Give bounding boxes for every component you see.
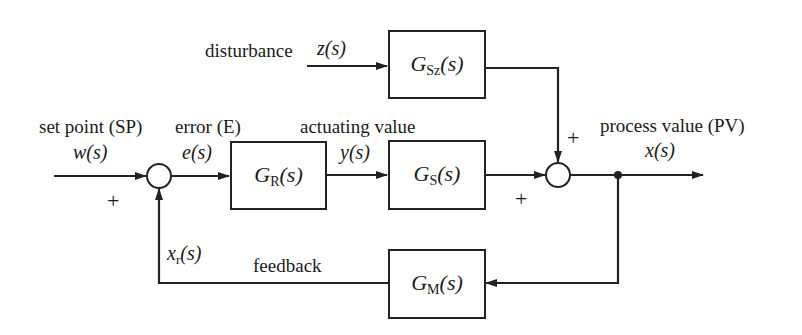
feedback-var: xr(s) xyxy=(167,243,201,266)
summing-junction-1 xyxy=(147,164,171,188)
error-label: error (E) xyxy=(175,117,241,136)
error-var: e(s) xyxy=(182,142,212,162)
block-measurement: GM(s) xyxy=(388,249,486,319)
disturbance-output-line xyxy=(485,68,558,162)
sum2-disturbance-plus-sign: + xyxy=(567,127,579,149)
block-plant: GS(s) xyxy=(388,140,486,210)
disturbance-var: z(s) xyxy=(317,38,346,58)
sum2-plant-plus-sign: + xyxy=(515,188,527,210)
actuating-var: y(s) xyxy=(340,142,370,162)
summing-junction-2 xyxy=(546,163,570,187)
actuating-label: actuating value xyxy=(300,117,416,136)
process-label: process value (PV) xyxy=(600,116,745,135)
setpoint-label: set point (SP) xyxy=(39,117,142,136)
setpoint-var: w(s) xyxy=(73,142,107,162)
disturbance-transfer-function: GSz(s) xyxy=(410,51,463,79)
measurement-transfer-function: GM(s) xyxy=(411,270,463,298)
sum1-plus-sign: + xyxy=(107,190,119,212)
process-var: x(s) xyxy=(645,140,675,160)
block-disturbance: GSz(s) xyxy=(388,30,486,99)
measurement-input-line xyxy=(486,175,618,283)
plant-transfer-function: GS(s) xyxy=(414,161,461,189)
controller-transfer-function: GR(s) xyxy=(254,162,302,190)
feedback-label: feedback xyxy=(253,256,322,275)
control-block-diagram: GR(s) GS(s) GSz(s) GM(s) disturbance z(s… xyxy=(0,0,802,335)
block-controller: GR(s) xyxy=(230,141,327,210)
disturbance-label: disturbance xyxy=(205,41,293,60)
